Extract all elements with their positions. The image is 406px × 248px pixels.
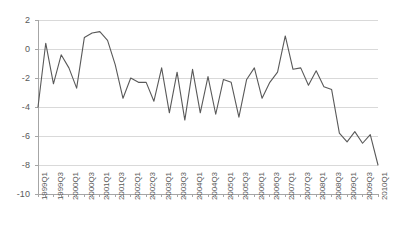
x-tick-label-2005Q1: 2005Q1: [227, 172, 235, 200]
x-tick-label-2002Q1: 2002Q1: [134, 172, 142, 200]
y-tick-label-2: 2: [8, 15, 30, 25]
x-tick-label-2007Q3: 2007Q3: [304, 172, 312, 200]
x-tick-label-2002Q3: 2002Q3: [149, 172, 157, 200]
x-tick-label-2009Q1: 2009Q1: [350, 172, 358, 200]
x-tick-label-2006Q3: 2006Q3: [273, 172, 281, 200]
x-tick-label-2004Q1: 2004Q1: [196, 172, 204, 200]
y-tick-label--8: -8: [8, 160, 30, 170]
line-chart: 20-2-4-6-8-10 1999Q11999Q32000Q12000Q320…: [0, 0, 406, 248]
x-tick-label-2000Q1: 2000Q1: [72, 172, 80, 200]
x-tick-label-2003Q1: 2003Q1: [165, 172, 173, 200]
x-tick-label-1999Q1: 1999Q1: [41, 172, 49, 200]
x-tick-label-2006Q1: 2006Q1: [258, 172, 266, 200]
x-tick-label-2008Q1: 2008Q1: [319, 172, 327, 200]
x-tick-label-1999Q3: 1999Q3: [57, 172, 65, 200]
chart-plot-area: [0, 0, 406, 248]
y-tick-label--10: -10: [8, 189, 30, 199]
x-tick-label-2008Q3: 2008Q3: [335, 172, 343, 200]
x-tick-label-2010Q1: 2010Q1: [381, 172, 389, 200]
gridlines: [38, 20, 378, 194]
y-tick-label--2: -2: [8, 73, 30, 83]
y-tick-label--4: -4: [8, 102, 30, 112]
x-tick-label-2000Q3: 2000Q3: [88, 172, 96, 200]
x-tick-label-2001Q1: 2001Q1: [103, 172, 111, 200]
x-tick-label-2005Q3: 2005Q3: [242, 172, 250, 200]
x-tick-label-2007Q1: 2007Q1: [288, 172, 296, 200]
y-tick-label-0: 0: [8, 44, 30, 54]
x-tick-label-2004Q3: 2004Q3: [211, 172, 219, 200]
x-tick-label-2001Q3: 2001Q3: [118, 172, 126, 200]
y-tick-label--6: -6: [8, 131, 30, 141]
x-tick-label-2009Q3: 2009Q3: [366, 172, 374, 200]
data-series-line: [38, 32, 378, 165]
x-tick-label-2003Q3: 2003Q3: [180, 172, 188, 200]
